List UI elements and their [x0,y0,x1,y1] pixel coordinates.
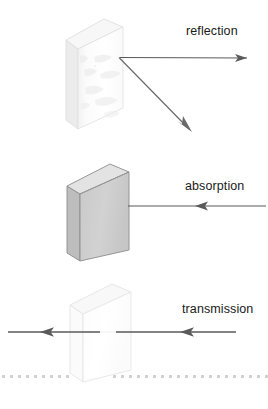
optics-diagram: reflection absorption transmission [0,0,268,409]
block-side-face [66,40,78,129]
reflection-incoming-ray [120,58,247,59]
transparent-block [70,284,131,382]
label-absorption: absorption [185,180,244,193]
rough-white-block [66,19,123,129]
dotted-baseline [2,375,268,378]
diagram-canvas [0,0,268,409]
label-reflection: reflection [186,25,238,38]
reflection-reflected-ray [119,58,189,130]
label-transmission: transmission [182,303,253,316]
block-side-face [67,186,80,261]
solid-gray-block [67,164,129,261]
block-side-face [70,305,83,382]
scene-transmission [2,284,268,382]
